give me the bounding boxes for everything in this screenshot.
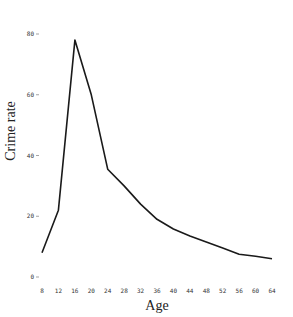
y-tick-label: 60 — [27, 91, 35, 98]
y-axis-title: Crime rate — [3, 101, 18, 160]
crime-rate-line — [42, 40, 272, 259]
x-tick-label: 16 — [71, 287, 79, 294]
x-tick-label: 28 — [121, 287, 129, 294]
y-tick-label: 80 — [27, 30, 35, 37]
x-axis-ticks: 81216202428323640444852566064 — [40, 287, 276, 294]
line-chart: 020406080 81216202428323640444852566064 … — [0, 0, 293, 317]
x-tick-label: 40 — [170, 287, 178, 294]
y-tick-label: 20 — [27, 212, 35, 219]
y-tick-label: 40 — [27, 152, 35, 159]
x-tick-label: 8 — [40, 287, 44, 294]
x-tick-label: 48 — [203, 287, 211, 294]
y-axis-ticks: 020406080 — [27, 30, 39, 280]
y-tick-label: 0 — [30, 273, 34, 280]
x-tick-label: 36 — [153, 287, 161, 294]
x-axis-title: Age — [145, 298, 168, 313]
x-tick-label: 44 — [186, 287, 194, 294]
x-tick-label: 20 — [88, 287, 96, 294]
x-tick-label: 56 — [236, 287, 244, 294]
x-tick-label: 64 — [268, 287, 276, 294]
x-tick-label: 24 — [104, 287, 112, 294]
x-tick-label: 60 — [252, 287, 260, 294]
x-tick-label: 12 — [55, 287, 63, 294]
x-tick-label: 32 — [137, 287, 145, 294]
x-tick-label: 52 — [219, 287, 227, 294]
